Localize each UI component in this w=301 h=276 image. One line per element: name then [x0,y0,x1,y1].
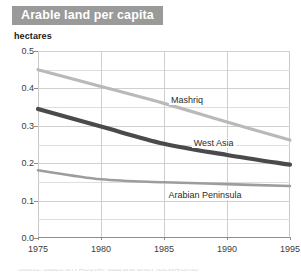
plot-area: MashriqWest AsiaArabian Peninsula [38,51,290,238]
x-tick-mark [290,237,291,240]
x-axis-tick-labels: 19751980198519901995 [38,240,290,258]
y-tick-label: 0.3 [21,120,34,130]
y-axis-unit-label: hectares [14,31,52,41]
y-axis-tick-labels: 0.50.40.30.20.10.0 [0,51,34,238]
series-line-mashriq [38,70,290,140]
y-tick-label: 0.1 [21,195,34,205]
y-tick-label: 0.0 [21,233,34,243]
chart-title-banner: Arable land per capita [12,6,163,25]
page-title: Arable land per capita [21,9,154,22]
series-label-west-asia: West Asia [192,138,236,148]
x-tick-mark [227,237,228,240]
x-tick-label: 1980 [91,244,111,254]
x-tick-label: 1995 [280,244,300,254]
series-line-west-asia [38,109,290,165]
series-line-arabian-peninsula [38,170,290,186]
x-tick-mark [101,237,102,240]
footer-source-strip: Source: based on FAOSTAT data and UNEP/D… [0,269,301,276]
x-tick-mark [38,237,39,240]
footer-source-text: Source: based on FAOSTAT data and UNEP/D… [18,269,198,272]
x-tick-label: 1985 [154,244,174,254]
series-label-arabian-peninsula: Arabian Peninsula [167,190,244,200]
series-lines [38,51,290,238]
x-tick-label: 1990 [217,244,237,254]
x-tick-label: 1975 [28,244,48,254]
x-tick-mark [164,237,165,240]
y-tick-label: 0.2 [21,158,34,168]
y-tick-label: 0.4 [21,83,34,93]
series-label-mashriq: Mashriq [169,95,205,105]
y-tick-label: 0.5 [21,46,34,56]
chart-figure: Arable land per capita hectares 0.50.40.… [0,0,301,276]
